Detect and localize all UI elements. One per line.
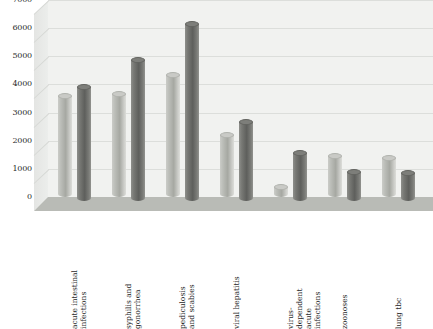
bar-body — [112, 94, 126, 197]
x-axis-label: acute intestinal infections — [70, 269, 88, 329]
plot-area — [34, 0, 433, 211]
x-axis-label: viral hepatitis — [232, 269, 241, 329]
bar-cap — [77, 84, 91, 90]
bar-body — [58, 96, 72, 197]
y-axis-tick: 6000 — [12, 24, 32, 32]
bar — [58, 93, 72, 197]
y-axis-tick: 4000 — [12, 80, 32, 88]
bar-body — [185, 24, 199, 201]
bar-cap — [58, 93, 72, 99]
bar — [293, 150, 307, 201]
bar — [274, 184, 288, 197]
bar-cap — [185, 21, 199, 27]
x-axis-label: lung tbc — [394, 269, 403, 329]
gridline-horizontal — [48, 113, 433, 114]
bar — [112, 91, 126, 197]
bar — [220, 132, 234, 197]
bar-body — [166, 75, 180, 197]
bar — [347, 169, 361, 201]
bar-cap — [382, 155, 396, 161]
bar — [328, 153, 342, 197]
y-axis-tick: 5000 — [12, 52, 32, 60]
y-axis-tick: 7000 — [12, 0, 32, 4]
bar — [185, 21, 199, 201]
x-axis-label: virus-dependent acute infections — [286, 269, 322, 329]
gridline-horizontal — [48, 84, 433, 85]
floor — [34, 197, 433, 211]
bar — [166, 72, 180, 197]
bar — [382, 155, 396, 197]
bar-body — [328, 156, 342, 197]
bar-body — [293, 153, 307, 201]
bar — [77, 84, 91, 201]
bar-cap — [166, 72, 180, 78]
bar-body — [239, 122, 253, 201]
bar — [401, 170, 415, 201]
bar-body — [347, 172, 361, 201]
y-axis-tick: 1000 — [12, 165, 32, 173]
y-axis-tick: 3000 — [12, 109, 32, 117]
bar-body — [220, 135, 234, 197]
y-axis-tick: 0 — [27, 193, 32, 201]
bar-body — [401, 173, 415, 201]
bar-body — [77, 87, 91, 201]
x-axis-label: pediculosis and scabies — [178, 269, 196, 329]
y-axis: 70006000500040003000200010000 — [0, 0, 34, 210]
gridline-horizontal — [48, 28, 433, 29]
bar — [131, 57, 145, 201]
gridline-horizontal — [48, 56, 433, 57]
x-axis-label: zoonoses — [340, 269, 349, 329]
gridline-horizontal — [48, 0, 433, 1]
x-axis: acute intestinal infectionssyphilis and … — [34, 211, 433, 271]
x-axis-label: syphilis and gonorrhea — [124, 269, 142, 329]
bar-cap — [347, 169, 361, 175]
bar-body — [131, 60, 145, 201]
bar-body — [382, 158, 396, 197]
y-axis-tick: 2000 — [12, 137, 32, 145]
bar — [239, 119, 253, 201]
